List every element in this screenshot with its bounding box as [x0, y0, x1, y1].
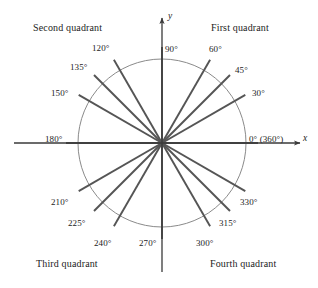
angle-label-210: 210° [51, 197, 69, 207]
angle-label-120: 120° [92, 43, 110, 53]
unit-circle-svg [0, 0, 318, 288]
angle-diagram-figure: x y Second quadrant First quadrant Third… [0, 0, 318, 288]
angle-label-90: 90° [165, 44, 178, 54]
angle-label-150: 150° [51, 88, 69, 98]
angle-label-270: 270° [139, 238, 157, 248]
quadrant-label-first: First quadrant [211, 22, 269, 33]
angle-label-0: 0° (360°) [249, 134, 283, 144]
y-axis-label: y [168, 11, 172, 21]
angle-label-300: 300° [196, 238, 214, 248]
angle-label-60: 60° [209, 44, 222, 54]
quadrant-label-second: Second quadrant [33, 22, 102, 33]
angle-label-45: 45° [235, 65, 248, 75]
angle-label-225: 225° [68, 218, 86, 228]
quadrant-label-third: Third quadrant [36, 258, 98, 269]
angle-label-180: 180° [45, 134, 63, 144]
angle-label-240: 240° [94, 238, 112, 248]
angle-label-30: 30° [252, 88, 265, 98]
angle-label-135: 135° [70, 62, 88, 72]
angle-label-315: 315° [219, 218, 237, 228]
angle-label-330: 330° [240, 197, 258, 207]
x-axis-label: x [303, 133, 307, 143]
quadrant-label-fourth: Fourth quadrant [210, 258, 276, 269]
